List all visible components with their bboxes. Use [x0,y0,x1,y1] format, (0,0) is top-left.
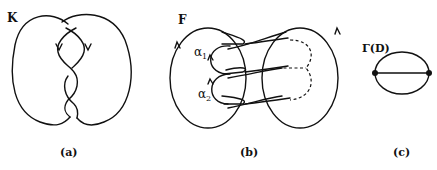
alpha-1-label: α1 [194,45,207,61]
caption-a: (a) [60,146,78,159]
vertex-left [372,70,378,76]
surface-label: F [178,13,187,27]
alpha-2-label: α2 [198,87,211,103]
vertex-right [426,70,432,76]
graph-label: Γ(D) [362,42,390,55]
panel-a-knot: K (a) [7,11,131,159]
caption-c: (c) [393,146,410,159]
panel-c-graph: Γ(D) (c) [362,42,432,159]
knot-label: K [7,11,18,25]
caption-b: (b) [240,146,258,159]
panel-b-surface: F α1 α2 (b) [170,13,340,159]
figure: K (a) F [0,0,437,170]
